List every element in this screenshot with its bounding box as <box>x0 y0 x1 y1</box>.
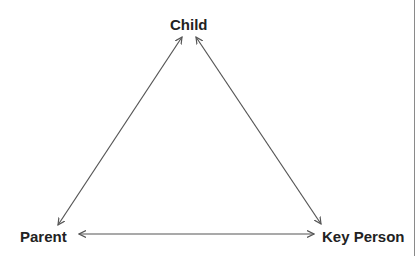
frame-border <box>414 0 415 256</box>
node-key-person: Key Person <box>322 229 405 244</box>
node-parent: Parent <box>20 229 67 244</box>
relationship-diagram: Child Parent Key Person <box>0 0 418 256</box>
node-child: Child <box>170 17 208 32</box>
